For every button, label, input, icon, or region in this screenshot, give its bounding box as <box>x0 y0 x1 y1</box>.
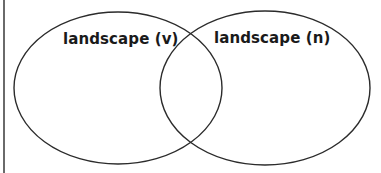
venn-diagram <box>0 0 381 173</box>
venn-set-left-label: landscape (v) <box>63 30 179 48</box>
venn-set-right-label: landscape (n) <box>214 29 330 47</box>
